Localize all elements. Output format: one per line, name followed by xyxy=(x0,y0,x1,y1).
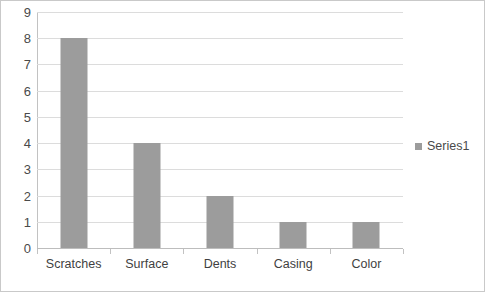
x-label-surface: Surface xyxy=(125,257,168,271)
y-tick-label-0: 0 xyxy=(3,242,31,255)
x-label-scratches: Scratches xyxy=(46,257,102,271)
bar-slot xyxy=(257,12,330,248)
bar[interactable] xyxy=(60,38,87,248)
x-label-dents: Dents xyxy=(204,257,237,271)
bar-slot xyxy=(330,12,403,248)
bar[interactable] xyxy=(280,222,307,248)
x-label-casing: Casing xyxy=(274,257,313,271)
x-tick xyxy=(403,249,404,254)
bar-slot xyxy=(110,12,183,248)
y-tick-label-3: 3 xyxy=(3,163,31,176)
bar-slot xyxy=(37,12,110,248)
chart-legend: Series1 xyxy=(415,139,469,153)
y-tick-label-5: 5 xyxy=(3,110,31,123)
legend-label-series1: Series1 xyxy=(427,139,469,153)
bar[interactable] xyxy=(353,222,380,248)
legend-swatch-series1 xyxy=(415,143,422,150)
plot-area xyxy=(37,12,403,248)
y-tick-label-6: 6 xyxy=(3,84,31,97)
y-tick-label-4: 4 xyxy=(3,137,31,150)
y-tick-label-9: 9 xyxy=(3,6,31,19)
y-tick-label-2: 2 xyxy=(3,189,31,202)
x-tick xyxy=(110,249,111,254)
y-tick-label-1: 1 xyxy=(3,215,31,228)
bar[interactable] xyxy=(133,143,160,248)
x-tick xyxy=(330,249,331,254)
x-label-color: Color xyxy=(351,257,381,271)
chart-frame: 9876543210 ScratchesSurfaceDentsCasingCo… xyxy=(0,0,485,292)
bar[interactable] xyxy=(206,196,233,248)
x-tick xyxy=(37,249,38,254)
x-tick xyxy=(183,249,184,254)
gridline-0 xyxy=(37,248,403,249)
x-tick xyxy=(257,249,258,254)
y-tick-label-8: 8 xyxy=(3,32,31,45)
y-axis-tick-labels: 9876543210 xyxy=(1,1,31,292)
y-tick-label-7: 7 xyxy=(3,58,31,71)
bar-slot xyxy=(183,12,256,248)
